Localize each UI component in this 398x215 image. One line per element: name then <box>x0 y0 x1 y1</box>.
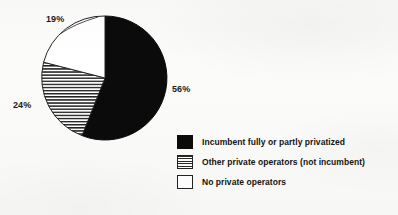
horizontal-stripe-swatch-icon <box>177 155 193 169</box>
chart-legend: Incumbent fully or partly privatized Oth… <box>177 132 395 192</box>
legend-label-other-private-operators: Other private operators (not incumbent) <box>202 157 365 167</box>
solid-black-swatch-icon <box>177 135 193 149</box>
white-swatch-icon <box>177 175 193 189</box>
legend-label-incumbent-privatized: Incumbent fully or partly privatized <box>202 137 345 147</box>
legend-item-no-private-operators: No private operators <box>177 172 395 191</box>
pie-label-24-percent: 24% <box>13 100 31 110</box>
legend-item-incumbent-privatized: Incumbent fully or partly privatized <box>177 132 395 151</box>
pie-chart-graphic <box>0 0 200 160</box>
pie-chart: 56% 24% 19% <box>0 0 200 160</box>
legend-item-other-private-operators: Other private operators (not incumbent) <box>177 152 395 171</box>
legend-label-no-private-operators: No private operators <box>202 177 286 187</box>
pie-label-19-percent: 19% <box>46 14 64 24</box>
pie-label-56-percent: 56% <box>172 84 190 94</box>
